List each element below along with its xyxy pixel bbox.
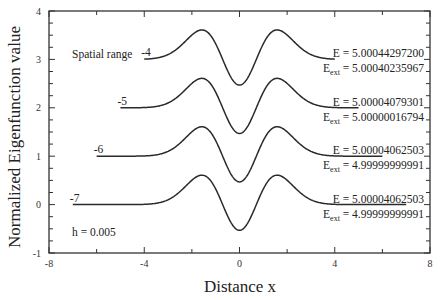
step-size-label: h = 0.005 [72,226,116,238]
extrapolated-energy-value: Eext = 5.00040235967 [323,62,424,77]
energy-labels: E = 5.00044297200Eext = 5.00040235967E =… [323,47,424,222]
spatial-range-label: Spatial range [72,48,132,61]
eigenfunction-curve [144,30,335,85]
extrapolated-energy-value: Eext = 4.99999999991 [323,208,424,223]
y-tick-labels: -101234 [33,6,41,259]
y-axis-title: Normalized Eigenfunction value [5,26,24,248]
energy-value: E = 5.00044297200 [333,47,424,59]
x-tick-labels: -8-4048 [45,258,433,269]
energy-value: E = 5.00004079301 [333,96,424,108]
range-label: -7 [70,192,80,204]
y-tick-label: 0 [36,199,41,210]
x-tick-label: 4 [332,258,337,269]
extrapolated-energy-value: Eext = 4.99999999991 [323,159,424,174]
eigenfunction-chart: -8-4048 -101234 -4-5-6-7 E = 5.000442972… [0,0,440,300]
eigenfunction-curve [120,78,358,133]
x-tick-label: -8 [45,258,53,269]
energy-value: E = 5.00004062503 [333,193,424,205]
x-tick-label: 0 [237,258,242,269]
spatial-range-labels: -4-5-6-7 [70,46,151,203]
x-tick-label: -4 [140,258,148,269]
y-tick-label: 3 [36,54,41,65]
range-label: -4 [141,46,151,58]
range-label: -5 [117,95,127,107]
range-label: -6 [94,143,104,155]
x-tick-label: 8 [428,258,433,269]
energy-value: E = 5.00004062503 [333,144,424,156]
y-tick-label: 1 [36,151,41,162]
y-tick-label: 2 [36,102,41,113]
y-tick-label: 4 [36,6,41,17]
extrapolated-energy-value: Eext = 5.00000016794 [323,111,424,126]
y-tick-label: -1 [33,248,41,259]
x-axis-title: Distance x [204,277,277,296]
